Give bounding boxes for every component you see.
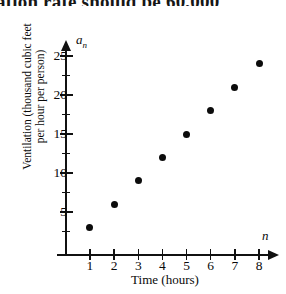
- y-tick-label: 5: [60, 205, 67, 219]
- y-axis-variable-subscript: n: [83, 40, 88, 50]
- y-tick-minor: [62, 153, 70, 155]
- y-tick-label: 25: [54, 49, 68, 63]
- data-point: [86, 224, 93, 231]
- y-tick-minor: [62, 192, 70, 194]
- y-axis-title-line-1: Ventilation (thousand cubic feet: [21, 0, 34, 197]
- data-point: [256, 60, 263, 67]
- y-tick-minor: [62, 114, 70, 116]
- data-point: [183, 131, 190, 138]
- x-axis-title: Time (hours): [95, 272, 235, 288]
- x-axis-arrow-icon: [268, 250, 279, 260]
- data-point: [231, 84, 238, 91]
- y-tick-label: 20: [54, 88, 68, 102]
- y-axis-title-line-2: per hour per person): [33, 0, 46, 197]
- data-point: [111, 201, 118, 208]
- y-tick-minor: [62, 75, 70, 77]
- y-axis-title: Ventilation (thousand cubic feet per hou…: [21, 0, 46, 197]
- y-tick-minor: [62, 231, 70, 233]
- scatter-plot: an n 510152025 12345678 Ventilation (tho…: [0, 0, 286, 294]
- y-tick-label: 10: [54, 166, 68, 180]
- x-tick-label: 8: [249, 258, 269, 274]
- x-axis-variable-label: n: [262, 228, 269, 244]
- y-axis-variable-label: an: [76, 32, 87, 50]
- figure-container: ation rate should be 60,000 an n 5101520…: [0, 0, 286, 294]
- data-point: [207, 107, 214, 114]
- y-tick-label: 15: [54, 127, 68, 141]
- y-axis-line: [65, 48, 67, 255]
- data-point: [159, 154, 166, 161]
- data-point: [135, 177, 142, 184]
